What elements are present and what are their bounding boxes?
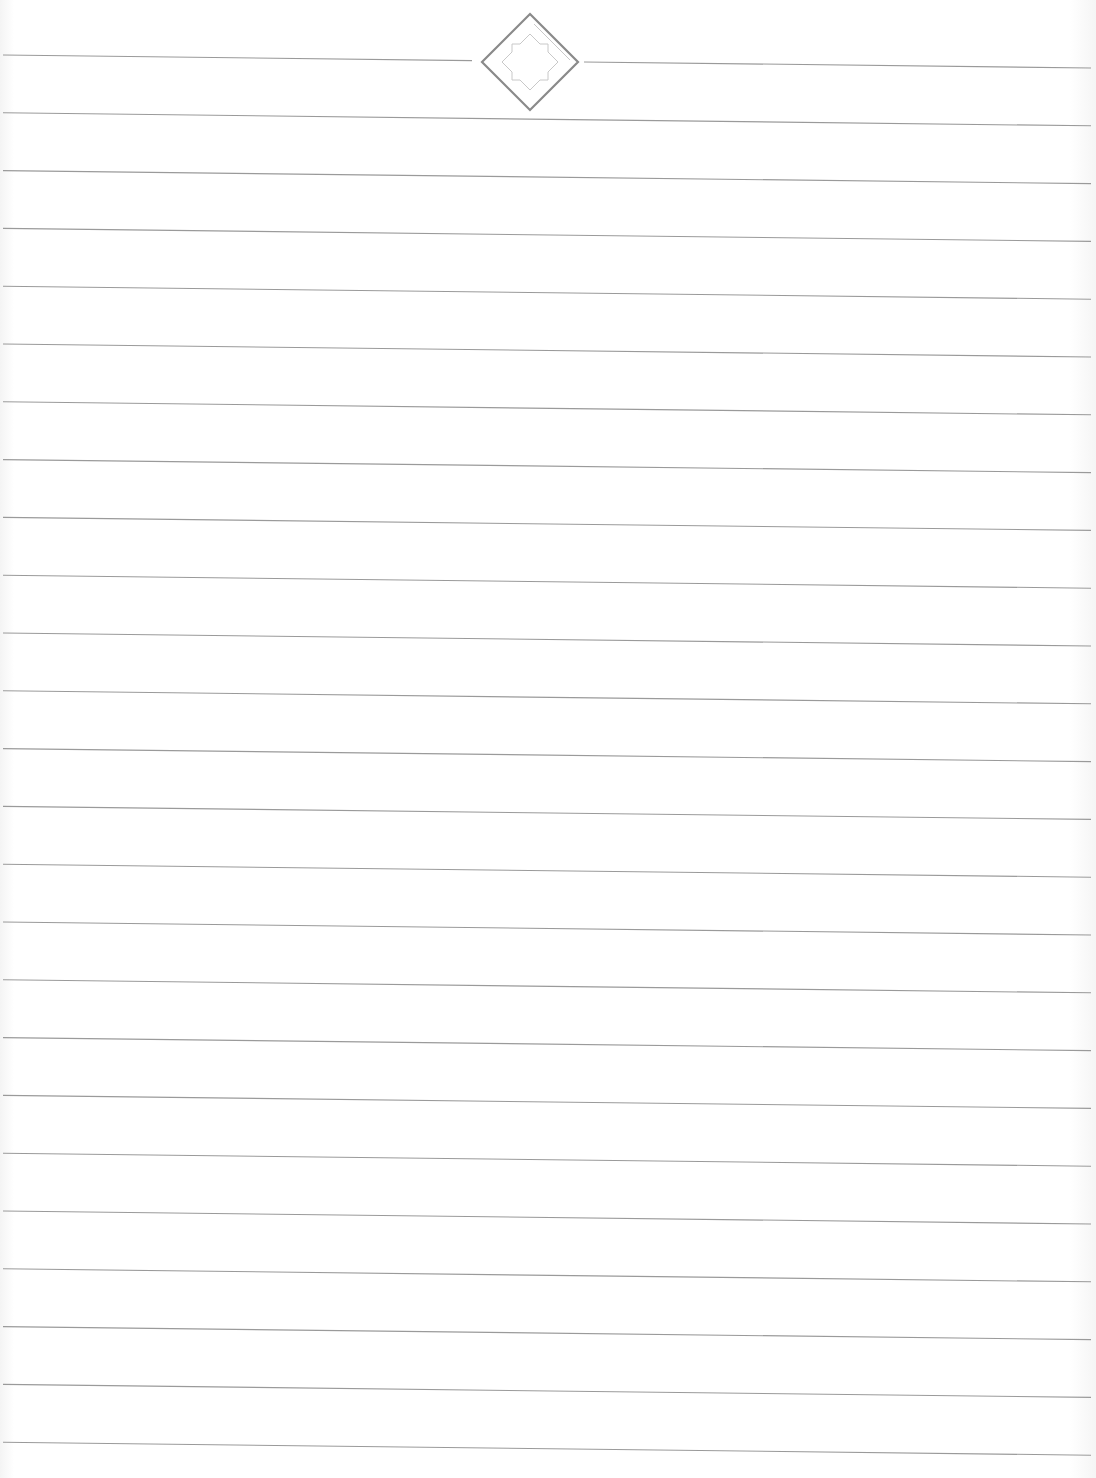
lined-paper-page xyxy=(0,0,1096,1478)
diamond-star-ornament-icon xyxy=(0,0,1096,1478)
diamond-frame xyxy=(482,14,578,110)
